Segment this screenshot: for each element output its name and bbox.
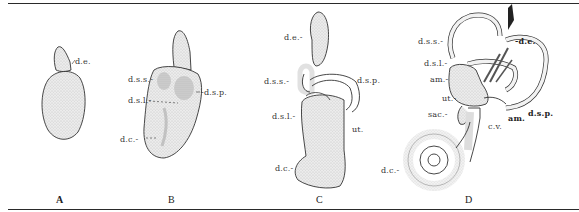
panel-letter-c: C (316, 195, 323, 205)
label-c-dss: d.s.s.- (264, 78, 289, 86)
label-d-cv: c.v. (488, 123, 502, 131)
panel-d-drawing (408, 4, 546, 186)
label-b-dsp: -d.s.p. (201, 89, 227, 97)
label-d-am-2: am. (508, 114, 525, 122)
label-d-dsp: d.s.p. (528, 109, 553, 117)
label-d-dss: d.s.s.- (418, 38, 443, 46)
label-c-ut: ut. (352, 126, 364, 134)
label-d-am-1: am.- (430, 76, 448, 84)
panel-b-drawing (144, 31, 202, 158)
label-b-dss: d.s.s.- (128, 76, 153, 84)
label-c-dsp: d.s.p. (357, 77, 380, 85)
label-c-de: d.e.- (284, 34, 303, 42)
label-d-sac: sac.- (428, 111, 448, 119)
label-d-de: -d.e. (515, 37, 536, 45)
panel-letter-b: B (168, 195, 175, 205)
label-b-dc: d.c.- (120, 136, 138, 144)
label-c-dsl: d.s.l.- (272, 113, 296, 121)
panel-c-drawing (295, 12, 359, 188)
label-c-dc: d.c.- (275, 165, 293, 173)
panel-letter-d: D (465, 195, 472, 205)
label-b-dsl: d.s.l.- (128, 97, 152, 105)
label-d-ut: ut.- (442, 95, 456, 103)
label-a-de: d.e. (75, 58, 91, 66)
labyrinth-drawings (0, 0, 579, 212)
panel-letter-a: A (56, 195, 63, 205)
label-d-dc: d.c.- (381, 167, 399, 175)
label-d-dsl: d.s.l.- (424, 60, 448, 68)
